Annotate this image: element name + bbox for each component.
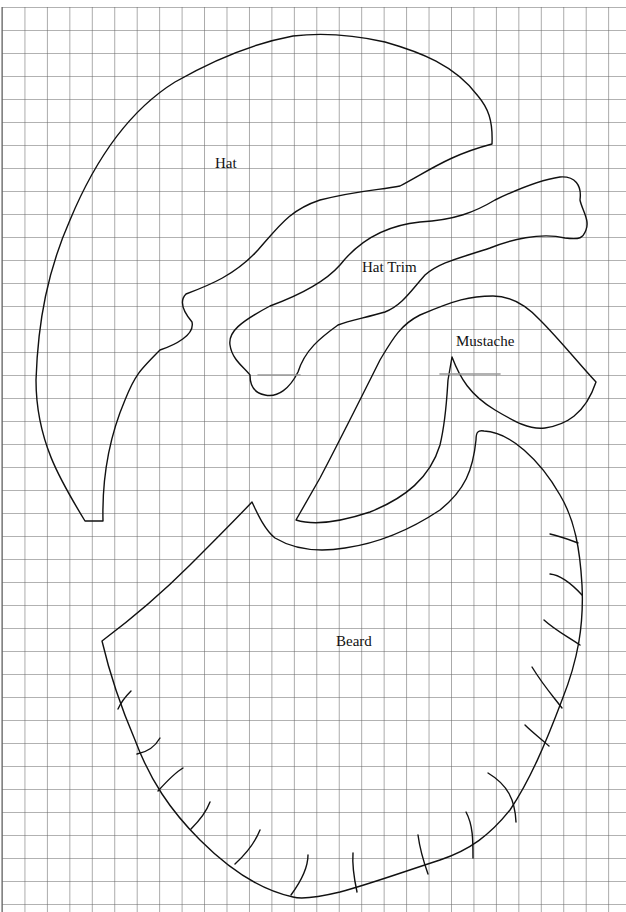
mustache-outline (296, 296, 596, 523)
label-mustache: Mustache (456, 334, 514, 349)
pattern-sheet: Hat Hat Trim Mustache Beard (0, 0, 626, 912)
label-hat: Hat (215, 156, 237, 171)
hat-trim-outline (230, 177, 587, 396)
label-hat-trim: Hat Trim (362, 260, 417, 275)
hat-outline (36, 34, 492, 521)
label-beard: Beard (336, 634, 372, 649)
beard-hair-marks (118, 534, 582, 895)
beard-outline (102, 431, 582, 898)
